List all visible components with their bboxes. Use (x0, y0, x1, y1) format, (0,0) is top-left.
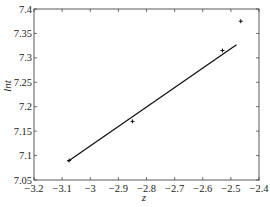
x-tick-label: −2.8 (137, 183, 156, 194)
x-tick-label: −3 (85, 183, 96, 194)
series-layer (67, 19, 243, 162)
y-tick-label: 7.3 (19, 52, 32, 63)
x-tick-label: −2.9 (109, 183, 128, 194)
data-point (239, 19, 243, 23)
fit-line (68, 45, 237, 162)
x-tick-label: −3.1 (53, 183, 72, 194)
y-axis: 7.057.17.157.27.257.37.357.4 (14, 4, 259, 186)
y-tick-label: 7.2 (19, 101, 32, 112)
y-tick-label: 7.15 (14, 126, 32, 137)
y-tick-label: 7.05 (14, 175, 32, 186)
data-point (130, 119, 134, 123)
y-tick-label: 7.25 (14, 77, 32, 88)
y-axis-label: lnt (1, 79, 13, 92)
x-tick-label: −2.5 (221, 183, 240, 194)
x-tick-label: −2.4 (249, 183, 269, 194)
y-tick-label: 7.35 (14, 28, 32, 39)
y-tick-label: 7.1 (19, 150, 32, 161)
x-axis-label: z (141, 191, 147, 203)
plot-area (34, 9, 259, 180)
plot-frame (34, 9, 259, 180)
y-tick-label: 7.4 (19, 4, 33, 15)
chart: −3.2−3.1−3−2.9−2.8−2.7−2.6−2.5−2.4 7.057… (0, 0, 270, 207)
x-tick-label: −2.6 (193, 183, 212, 194)
x-tick-label: −2.7 (165, 183, 184, 194)
x-axis: −3.2−3.1−3−2.9−2.8−2.7−2.6−2.5−2.4 (24, 9, 269, 194)
data-point (220, 49, 224, 53)
